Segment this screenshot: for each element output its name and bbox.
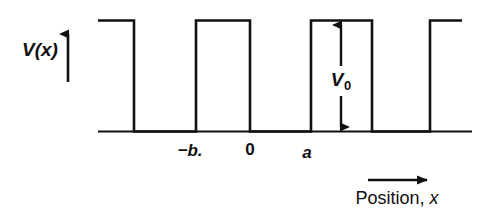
potential-diagram-figure: V(x) −b. 0 a V0 Position, x <box>0 0 486 217</box>
tick-label-zero: 0 <box>245 141 254 158</box>
v0-subscript: 0 <box>344 78 351 93</box>
tick-label-minus-b: −b. <box>177 142 202 159</box>
x-axis-label-prefix: Position, <box>355 188 429 208</box>
tick-label-a: a <box>302 144 311 161</box>
x-axis-label-variable: x <box>430 188 439 208</box>
potential-plot-svg <box>0 0 486 217</box>
potential-waveform <box>98 21 462 132</box>
v0-amplitude-label: V0 <box>331 70 351 92</box>
y-axis-label: V(x) <box>22 40 58 59</box>
x-axis-label: Position, x <box>355 189 438 207</box>
v0-symbol: V <box>331 69 344 90</box>
